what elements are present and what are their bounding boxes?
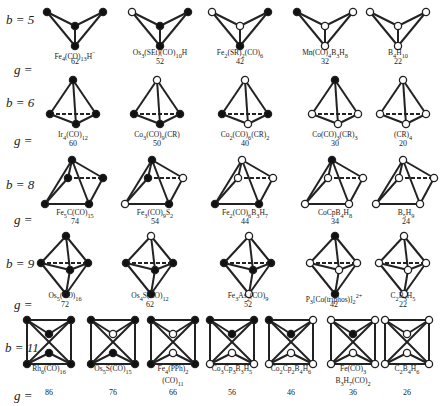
b-row-label: b = 5 <box>6 12 34 28</box>
cluster-diagram-trigonal-prism-capped <box>206 316 258 368</box>
main-group-vertex-icon <box>349 8 356 15</box>
metal-vertex-icon <box>130 110 137 117</box>
metal-vertex-icon <box>255 200 262 207</box>
metal-vertex-icon <box>206 316 213 323</box>
electron-count-value: 62 <box>55 57 95 66</box>
main-group-vertex-icon <box>381 316 388 323</box>
electron-count-value: 42 <box>220 57 260 66</box>
main-group-vertex-icon <box>349 349 356 356</box>
metal-vertex-icon <box>249 266 256 273</box>
electron-count-value: 22 <box>378 57 418 66</box>
electron-count-value: 60 <box>53 139 93 148</box>
metal-vertex-icon <box>349 330 356 337</box>
metal-vertex-icon <box>71 22 78 29</box>
main-group-vertex-icon <box>394 22 401 29</box>
electron-count-value: 62 <box>130 300 170 309</box>
cluster-diagram-butterfly <box>128 4 192 52</box>
main-group-vertex-icon <box>327 316 334 323</box>
main-group-vertex-icon <box>425 316 432 323</box>
cluster-diagram-tetrahedron <box>46 76 100 132</box>
metal-vertex-icon <box>66 266 73 273</box>
metal-vertex-icon <box>37 259 44 266</box>
electron-count-value: 36 <box>333 388 373 397</box>
main-group-vertex-icon <box>416 200 423 207</box>
cluster-diagram-tetrahedron <box>218 76 272 132</box>
electron-count-value: 54 <box>135 217 175 226</box>
main-group-vertex-icon <box>228 349 235 356</box>
main-group-vertex-icon <box>241 76 248 83</box>
cluster-diagram-trigonal-prism-capped <box>327 316 379 368</box>
cluster-diagram-square-pyramid <box>211 156 279 212</box>
metal-vertex-icon <box>211 200 218 207</box>
main-group-vertex-icon <box>244 120 251 127</box>
main-group-vertex-icon <box>324 174 331 181</box>
electron-count-value: 76 <box>93 388 133 397</box>
main-group-vertex-icon <box>309 316 316 323</box>
metal-vertex-icon <box>328 156 335 163</box>
metal-vertex-icon <box>23 316 30 323</box>
cluster-diagram-trigonal-prism-capped <box>265 316 317 368</box>
b-row-label: b = 9 <box>6 256 34 272</box>
metal-vertex-icon <box>84 259 91 266</box>
main-group-vertex-icon <box>399 76 406 83</box>
metal-vertex-icon <box>264 110 271 117</box>
main-group-vertex-icon <box>238 156 245 163</box>
metal-vertex-icon <box>151 266 158 273</box>
cluster-diagram-square-pyramid <box>372 156 440 212</box>
cluster-diagram-square-pyramid <box>301 156 369 212</box>
cluster-diagram-trigonal-prism-capped <box>147 316 199 368</box>
metal-vertex-icon <box>176 110 183 117</box>
main-group-vertex-icon <box>321 22 328 29</box>
cluster-diagram-square-pyramid <box>41 156 109 212</box>
main-group-vertex-icon <box>422 110 429 117</box>
cluster-diagram-square-pyramid <box>121 156 189 212</box>
metal-vertex-icon <box>43 8 50 15</box>
electron-count-value: 22 <box>383 300 423 309</box>
metal-vertex-icon <box>267 259 274 266</box>
electron-count-value: 52 <box>140 57 180 66</box>
metal-vertex-icon <box>169 259 176 266</box>
metal-vertex-icon <box>45 349 52 356</box>
metal-vertex-icon <box>144 174 151 181</box>
metal-vertex-icon <box>131 316 138 323</box>
electron-count-value: 66 <box>153 388 193 397</box>
electron-count-value: 56 <box>212 388 252 397</box>
main-group-vertex-icon <box>354 110 361 117</box>
electron-count-value: 50 <box>137 139 177 148</box>
main-group-vertex-icon <box>245 232 252 239</box>
cluster-diagram-trigonal-prism-capped <box>23 316 75 368</box>
metal-vertex-icon <box>92 110 99 117</box>
metal-vertex-icon <box>69 76 76 83</box>
main-group-vertex-icon <box>208 8 215 15</box>
metal-vertex-icon <box>87 316 94 323</box>
cluster-diagram-tetrahedron <box>308 76 362 132</box>
cluster-diagram-trigonal-prism-capped <box>381 316 433 368</box>
metal-vertex-icon <box>72 120 79 127</box>
g-row-label: g = <box>14 62 33 78</box>
main-group-vertex-icon <box>287 349 294 356</box>
b-row-label: b = 6 <box>6 95 34 111</box>
metal-vertex-icon <box>99 8 106 15</box>
main-group-vertex-icon <box>335 266 342 273</box>
main-group-vertex-icon <box>153 76 160 83</box>
electron-count-value: 32 <box>305 57 345 66</box>
metal-vertex-icon <box>62 232 69 239</box>
metal-vertex-icon <box>64 174 71 181</box>
main-group-vertex-icon <box>422 8 429 15</box>
electron-count-value: 44 <box>225 217 265 226</box>
metal-vertex-icon <box>68 156 75 163</box>
metal-vertex-icon <box>331 76 338 83</box>
metal-vertex-icon <box>85 200 92 207</box>
main-group-vertex-icon <box>147 232 154 239</box>
main-group-vertex-icon <box>306 259 313 266</box>
metal-vertex-icon <box>147 316 154 323</box>
cluster-formula: C2B4H6 <box>362 364 441 376</box>
metal-vertex-icon <box>109 349 116 356</box>
cluster-diagram-butterfly <box>293 4 357 52</box>
main-group-vertex-icon <box>404 266 411 273</box>
main-group-vertex-icon <box>109 330 116 337</box>
metal-vertex-icon <box>287 330 294 337</box>
electron-count-value: 40 <box>225 139 265 148</box>
metal-vertex-icon <box>228 330 235 337</box>
main-group-vertex-icon <box>169 330 176 337</box>
